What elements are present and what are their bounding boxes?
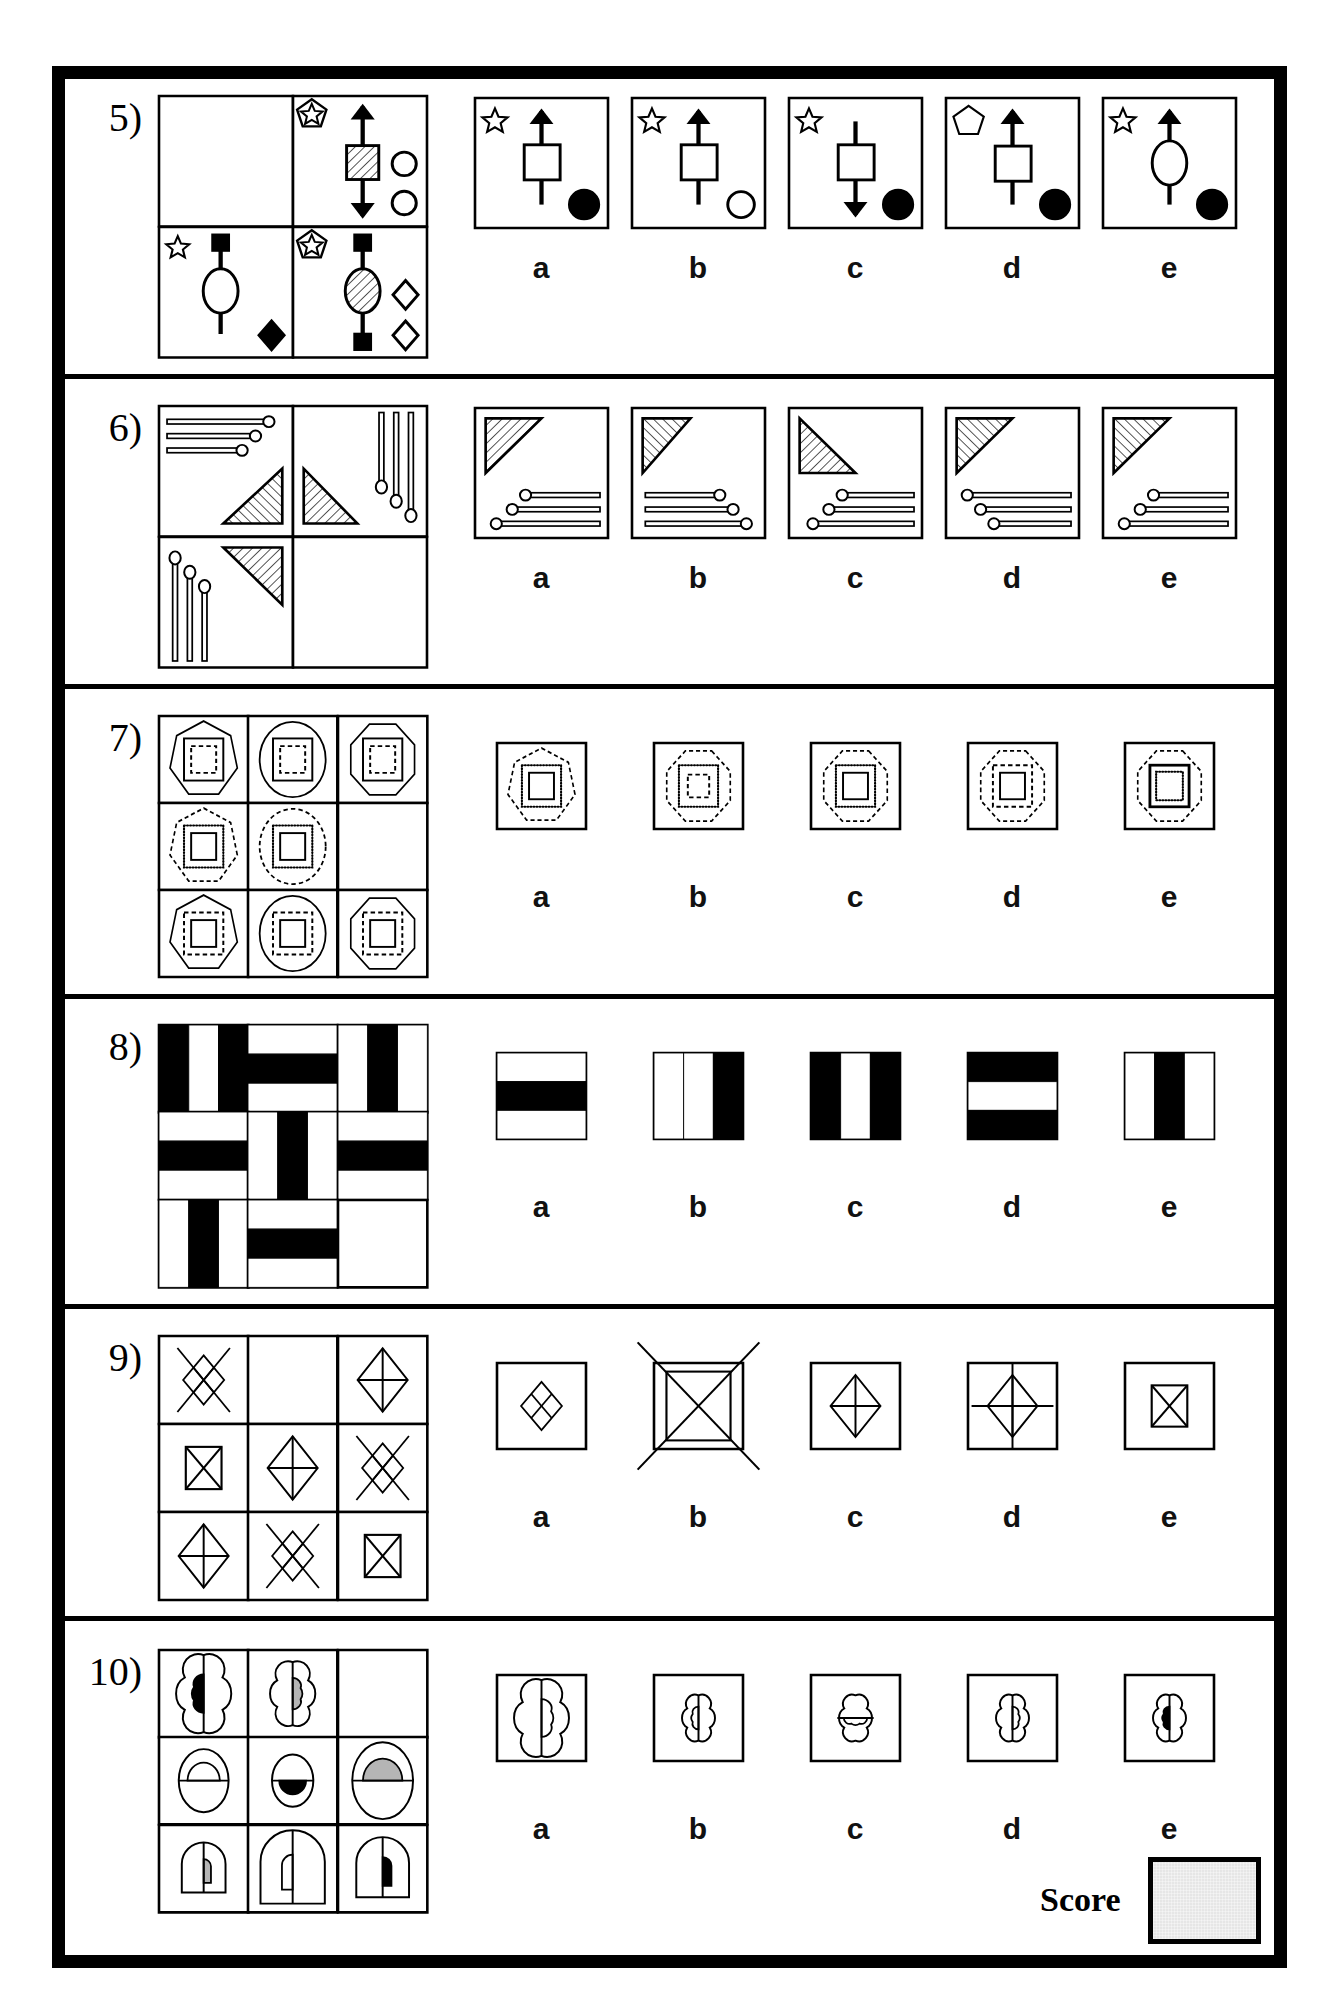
matrix-cell bbox=[248, 1650, 337, 1737]
answer-option-e[interactable] bbox=[1103, 408, 1236, 538]
answer-label-b[interactable]: b bbox=[668, 253, 728, 283]
answer-option-d[interactable] bbox=[968, 1053, 1057, 1139]
answer-option-a[interactable] bbox=[475, 98, 608, 228]
answer-label-a[interactable]: a bbox=[511, 1192, 571, 1222]
matrix-cell bbox=[248, 1200, 337, 1287]
matrix-cell bbox=[159, 1825, 248, 1912]
matrix-cell-missing bbox=[338, 1650, 427, 1737]
answer-option-b[interactable] bbox=[654, 1675, 743, 1761]
answer-option-b[interactable] bbox=[632, 408, 765, 538]
answer-label-e[interactable]: e bbox=[1139, 1502, 1199, 1532]
answer-label-d[interactable]: d bbox=[982, 1814, 1042, 1844]
matrix-cell bbox=[338, 1112, 427, 1199]
puzzle-matrix bbox=[159, 1025, 427, 1287]
matrix-cell bbox=[159, 716, 248, 803]
answer-label-e[interactable]: e bbox=[1139, 1192, 1199, 1222]
answer-label-c[interactable]: c bbox=[825, 882, 885, 912]
question-number: 6) bbox=[54, 408, 142, 448]
answer-label-a[interactable]: a bbox=[511, 1814, 571, 1844]
answer-option-b[interactable] bbox=[654, 1053, 743, 1139]
answer-option-d[interactable] bbox=[968, 1363, 1057, 1449]
puzzle-matrix bbox=[159, 1650, 427, 1912]
matrix-cell bbox=[248, 1424, 337, 1512]
answer-label-c[interactable]: c bbox=[825, 1502, 885, 1532]
matrix-cell-missing bbox=[159, 96, 293, 227]
matrix-cell bbox=[248, 716, 337, 803]
row-divider bbox=[65, 994, 1274, 999]
answer-option-e[interactable] bbox=[1103, 98, 1236, 228]
answer-option-c[interactable] bbox=[789, 408, 922, 538]
answer-label-e[interactable]: e bbox=[1139, 563, 1199, 593]
answer-option-c[interactable] bbox=[811, 1675, 900, 1761]
answer-label-a[interactable]: a bbox=[511, 253, 571, 283]
puzzle-matrix bbox=[159, 716, 427, 977]
answer-option-c[interactable] bbox=[811, 1053, 900, 1139]
answer-option-e[interactable] bbox=[1125, 1675, 1214, 1761]
answer-option-a[interactable] bbox=[497, 743, 586, 829]
answer-option-c[interactable] bbox=[811, 1363, 900, 1449]
answer-option-d[interactable] bbox=[968, 1675, 1057, 1761]
answer-option-c[interactable] bbox=[789, 98, 922, 228]
answer-label-a[interactable]: a bbox=[511, 882, 571, 912]
matrix-cell bbox=[338, 1336, 427, 1424]
matrix-cell-missing bbox=[338, 1200, 427, 1287]
matrix-cell bbox=[248, 1512, 337, 1600]
matrix-cell bbox=[248, 1112, 337, 1199]
answer-option-a[interactable] bbox=[475, 408, 608, 538]
puzzle-matrix bbox=[159, 96, 427, 357]
answer-label-e[interactable]: e bbox=[1139, 882, 1199, 912]
matrix-cell bbox=[159, 1025, 248, 1112]
matrix-cell bbox=[248, 1825, 337, 1912]
answer-option-a[interactable] bbox=[497, 1053, 586, 1139]
answer-label-d[interactable]: d bbox=[982, 1502, 1042, 1532]
puzzle-matrix bbox=[159, 1336, 427, 1600]
answer-label-b[interactable]: b bbox=[668, 1192, 728, 1222]
answer-label-c[interactable]: c bbox=[825, 1814, 885, 1844]
answer-label-d[interactable]: d bbox=[982, 563, 1042, 593]
answer-option-d[interactable] bbox=[946, 98, 1079, 228]
answer-label-c[interactable]: c bbox=[825, 1192, 885, 1222]
answer-label-c[interactable]: c bbox=[825, 253, 885, 283]
answer-label-e[interactable]: e bbox=[1139, 1814, 1199, 1844]
matrix-cell bbox=[338, 1025, 427, 1112]
matrix-cell bbox=[159, 537, 293, 668]
answer-label-d[interactable]: d bbox=[982, 1192, 1042, 1222]
row-divider bbox=[65, 1304, 1274, 1309]
answer-label-d[interactable]: d bbox=[982, 882, 1042, 912]
answer-option-e[interactable] bbox=[1125, 1363, 1214, 1449]
matrix-cell-missing bbox=[248, 1336, 337, 1424]
answer-label-b[interactable]: b bbox=[668, 563, 728, 593]
answer-label-b[interactable]: b bbox=[668, 1814, 728, 1844]
puzzle-matrix bbox=[159, 406, 427, 667]
answer-option-e[interactable] bbox=[1125, 1053, 1214, 1139]
answer-option-b[interactable] bbox=[632, 98, 765, 228]
answer-option-c[interactable] bbox=[811, 743, 900, 829]
matrix-cell bbox=[248, 890, 337, 977]
answer-label-c[interactable]: c bbox=[825, 563, 885, 593]
answer-label-a[interactable]: a bbox=[511, 1502, 571, 1532]
answer-option-d[interactable] bbox=[946, 408, 1079, 538]
answer-label-a[interactable]: a bbox=[511, 563, 571, 593]
answer-option-a[interactable] bbox=[497, 1363, 586, 1449]
matrix-cell bbox=[338, 1737, 427, 1824]
matrix-cell bbox=[159, 803, 248, 890]
row-divider bbox=[65, 374, 1274, 379]
answer-label-e[interactable]: e bbox=[1139, 253, 1199, 283]
question-number: 5) bbox=[54, 98, 142, 138]
answer-label-b[interactable]: b bbox=[668, 882, 728, 912]
answer-option-b[interactable] bbox=[654, 743, 743, 829]
answer-option-a[interactable] bbox=[497, 1675, 586, 1761]
answer-option-e[interactable] bbox=[1125, 743, 1214, 829]
matrix-cell bbox=[159, 1737, 248, 1824]
matrix-cell-missing bbox=[338, 803, 427, 890]
answer-option-d[interactable] bbox=[968, 743, 1057, 829]
row-divider bbox=[65, 1616, 1274, 1621]
question-number: 8) bbox=[54, 1027, 142, 1067]
answer-label-b[interactable]: b bbox=[668, 1502, 728, 1532]
answer-label-d[interactable]: d bbox=[982, 253, 1042, 283]
matrix-cell bbox=[159, 227, 293, 358]
score-input-box[interactable] bbox=[1148, 1857, 1261, 1944]
answer-option-b[interactable] bbox=[654, 1363, 743, 1449]
matrix-cell bbox=[338, 890, 427, 977]
matrix-cell bbox=[293, 96, 427, 227]
